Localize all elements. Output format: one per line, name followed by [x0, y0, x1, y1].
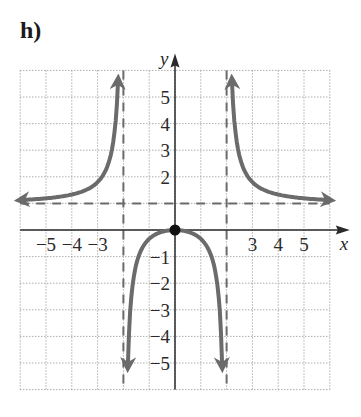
- curve-left-branch: [20, 80, 118, 200]
- y-tick-label: 4: [161, 114, 171, 135]
- y-tick-label: −3: [150, 300, 170, 321]
- x-tick-label: −3: [87, 234, 107, 255]
- x-axis-label: x: [339, 233, 349, 254]
- y-axis-arrow-icon: [171, 53, 180, 67]
- x-tick-label: 5: [299, 234, 309, 255]
- axes: xy: [20, 48, 350, 389]
- x-tick-label: 3: [248, 234, 258, 255]
- y-tick-label: −2: [150, 273, 170, 294]
- x-tick-label: −4: [62, 234, 83, 255]
- origin-point: [170, 225, 181, 236]
- curve-right-branch: [232, 80, 330, 200]
- y-tick-label: 3: [161, 140, 171, 161]
- x-tick-label: 4: [273, 234, 283, 255]
- y-tick-label: −4: [150, 326, 171, 347]
- points: [170, 225, 181, 236]
- y-tick-label: −5: [150, 353, 170, 374]
- y-tick-label: −1: [150, 247, 170, 268]
- rational-function-graph: xy −5−4−33455432−1−2−3−4−5: [0, 0, 361, 417]
- x-tick-label: −5: [36, 234, 56, 255]
- y-axis-label: y: [158, 48, 169, 69]
- y-tick-label: 5: [161, 87, 171, 108]
- y-tick-label: 2: [161, 167, 171, 188]
